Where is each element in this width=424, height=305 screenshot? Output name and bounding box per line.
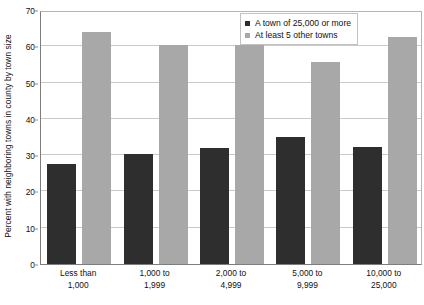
bar	[124, 154, 153, 264]
y-axis-tick-mark	[35, 47, 38, 48]
bar-group	[276, 12, 340, 264]
dark-square-icon	[245, 21, 250, 26]
x-axis-tick-label-line2: 1,000	[40, 280, 116, 292]
bar	[159, 45, 188, 264]
legend-item-label: A town of 25,000 or more	[255, 18, 351, 28]
y-axis-title-text: Percent with neighboring towns in county…	[3, 34, 13, 237]
bar	[311, 62, 340, 264]
x-axis-tick-label-line1: Less than	[60, 268, 96, 278]
y-axis-tick-label: 70	[26, 6, 35, 16]
bar	[353, 147, 382, 264]
x-axis-tick-label-line1: 2,000 to	[216, 268, 246, 278]
y-axis-tick-mark	[35, 83, 38, 84]
bar-group	[47, 12, 111, 264]
x-axis-tick-label: 1,000 to1,999	[116, 268, 192, 291]
plot-area	[40, 11, 422, 265]
chart-legend: A town of 25,000 or moreAt least 5 other…	[240, 13, 358, 45]
y-axis-tick-mark	[35, 228, 38, 229]
y-axis-tick-label: 60	[26, 42, 35, 52]
x-axis-tick-label: Less than1,000	[40, 268, 116, 291]
x-axis-tick-label-line2: 1,999	[116, 280, 192, 292]
x-axis-tick-label-line1: 1,000 to	[139, 268, 169, 278]
y-axis-tick-labels: 010203040506070	[14, 0, 38, 275]
gray-square-icon	[245, 33, 250, 38]
x-axis-tick-label-line2: 25,000	[346, 280, 422, 292]
bar-group	[353, 12, 417, 264]
bar-group	[124, 12, 188, 264]
x-axis-tick-label-line1: 5,000 to	[292, 268, 322, 278]
bar	[82, 32, 111, 264]
x-axis-tick-label: 10,000 to25,000	[346, 268, 422, 291]
legend-item: At least 5 other towns	[245, 29, 351, 41]
bar	[200, 148, 229, 264]
x-axis-tick-label-line2: 4,999	[193, 280, 269, 292]
y-axis-tick-label: 40	[26, 115, 35, 125]
y-axis-tick-mark	[35, 119, 38, 120]
legend-item: A town of 25,000 or more	[245, 17, 351, 29]
bar	[276, 137, 305, 264]
x-axis-tick-label: 2,000 to4,999	[193, 268, 269, 291]
y-axis-tick-label: 10	[26, 224, 35, 234]
x-axis-tick-labels: Less than1,0001,000 to1,9992,000 to4,999…	[40, 268, 422, 302]
bar	[235, 45, 264, 264]
y-axis-tick-mark	[35, 265, 38, 266]
y-axis-tick-mark	[35, 192, 38, 193]
x-axis-tick-label-line2: 9,999	[269, 280, 345, 292]
bar	[47, 164, 76, 264]
bar-group	[200, 12, 264, 264]
x-axis-tick-label-line1: 10,000 to	[366, 268, 401, 278]
bar-chart: Percent with neighboring towns in county…	[0, 0, 424, 305]
y-axis-tick-mark	[35, 156, 38, 157]
bars-layer	[41, 12, 421, 264]
bar	[388, 37, 417, 265]
legend-item-label: At least 5 other towns	[255, 30, 338, 40]
y-axis-tick-label: 20	[26, 187, 35, 197]
y-axis-tick-mark	[35, 11, 38, 12]
y-axis-tick-label: 50	[26, 79, 35, 89]
x-axis-tick-label: 5,000 to9,999	[269, 268, 345, 291]
y-axis-tick-label: 30	[26, 151, 35, 161]
